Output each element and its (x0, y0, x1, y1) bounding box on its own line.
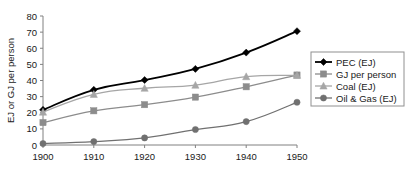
line-chart: 01020304050607080 1900191019201930194019… (0, 0, 408, 178)
y-axis-title: EJ or GJ per person (5, 38, 16, 123)
x-tick-label: 1940 (236, 151, 257, 162)
data-point (40, 119, 46, 125)
y-tick-label: 10 (26, 123, 37, 134)
data-point (142, 102, 148, 108)
data-point (192, 94, 198, 100)
chart-container: 01020304050607080 1900191019201930194019… (0, 0, 408, 178)
x-tick-label: 1920 (134, 151, 155, 162)
y-tick-label: 60 (26, 43, 37, 54)
legend-label: PEC (EJ) (336, 57, 376, 68)
y-axis-tick-labels: 01020304050607080 (26, 11, 43, 151)
data-point (243, 84, 249, 90)
series-line-3 (43, 102, 297, 143)
x-axis-tick-labels: 190019101920193019401950 (32, 145, 307, 162)
legend-marker (320, 71, 326, 77)
data-point (243, 119, 249, 125)
data-point (243, 49, 250, 56)
data-point (142, 135, 148, 141)
data-point (192, 126, 198, 132)
x-tick-label: 1900 (32, 151, 53, 162)
series-3 (40, 99, 300, 146)
y-tick-label: 40 (26, 75, 37, 86)
series-line-1 (43, 75, 297, 123)
y-tick-label: 50 (26, 59, 37, 70)
data-point (192, 65, 199, 72)
y-tick-label: 70 (26, 27, 37, 38)
chart-legend: PEC (EJ)GJ per personCoal (EJ)Oil & Gas … (311, 52, 404, 106)
y-tick-label: 20 (26, 107, 37, 118)
x-tick-label: 1910 (83, 151, 104, 162)
data-point (91, 139, 97, 145)
y-tick-label: 30 (26, 91, 37, 102)
data-point (294, 28, 301, 35)
x-tick-label: 1950 (286, 151, 307, 162)
chart-series-group (39, 28, 300, 147)
series-0 (40, 28, 301, 114)
data-point (294, 99, 300, 105)
y-tick-label: 80 (26, 11, 37, 22)
axis-lines (43, 16, 297, 145)
chart-axes (43, 16, 297, 145)
data-point (40, 140, 46, 146)
legend-marker (320, 95, 326, 101)
data-point (141, 77, 148, 84)
y-tick-label: 0 (32, 140, 37, 151)
legend-label: Coal (EJ) (336, 81, 376, 92)
x-tick-label: 1930 (185, 151, 206, 162)
data-point (91, 108, 97, 114)
y-axis-title-text: EJ or GJ per person (5, 38, 16, 123)
legend-label: GJ per person (336, 69, 396, 80)
series-2 (39, 72, 300, 116)
legend-label: Oil & Gas (EJ) (336, 93, 397, 104)
